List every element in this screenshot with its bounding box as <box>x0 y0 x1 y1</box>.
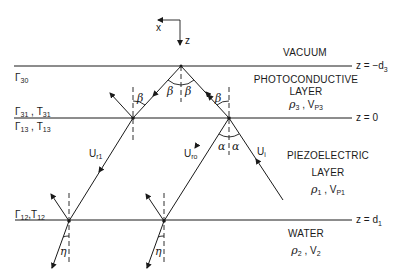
coefficient-gamma31-t31: Γ31 , T31 <box>15 106 51 118</box>
x-axis-label: x <box>156 22 161 33</box>
boundary-label-minus-d3: z = −d3 <box>356 60 388 73</box>
angle-beta-right: β <box>214 92 221 105</box>
layer-photoconductive-label-2: LAYER <box>289 86 322 97</box>
angle-alpha-left: α <box>218 140 226 153</box>
coefficient-gamma30: Γ30 <box>15 72 28 84</box>
z-axis-label: z <box>185 35 190 46</box>
angle-alpha-right: α <box>232 140 240 153</box>
layer-photoconductive-params: ρ3 , VP3 <box>288 98 323 111</box>
boundary-label-zero: z = 0 <box>356 112 378 123</box>
angle-labels: β β β β α α η η <box>60 85 240 258</box>
layer-vacuum-label: VACUUM <box>283 47 327 58</box>
boundary-label-d1: z = d1 <box>356 214 382 227</box>
wave-label-ur1: Ur1 <box>89 148 103 160</box>
angle-beta-left: β <box>136 92 143 105</box>
normal-lines <box>69 66 229 265</box>
layered-wave-diagram: x z z = −d3 z = 0 z = d1 VACUUM PHOTOCON… <box>0 0 397 280</box>
angle-eta-right: η <box>155 245 162 258</box>
coefficient-gamma12-t12: Γ12,T12 <box>15 209 45 221</box>
wave-label-uro: Uro <box>184 148 198 160</box>
axes-icon: x z <box>156 20 190 46</box>
angle-eta-left: η <box>60 245 67 258</box>
layer-water-params: ρ2 , V2 <box>290 244 320 257</box>
layer-piezoelectric-label-2: LAYER <box>311 167 344 178</box>
wave-label-ui: Ui <box>257 146 266 158</box>
angle-beta-top-left: β <box>166 85 173 98</box>
layer-water-label: WATER <box>288 228 324 239</box>
coefficient-gamma13-t13: Γ13 , T13 <box>15 121 51 133</box>
angle-beta-top-right: β <box>184 85 191 98</box>
layer-piezoelectric-label: PIEZOELECTRIC <box>287 150 369 161</box>
layer-photoconductive-label: PHOTOCONDUCTIVE <box>254 74 359 85</box>
layer-piezoelectric-params: ρ1 , VP1 <box>310 183 345 196</box>
